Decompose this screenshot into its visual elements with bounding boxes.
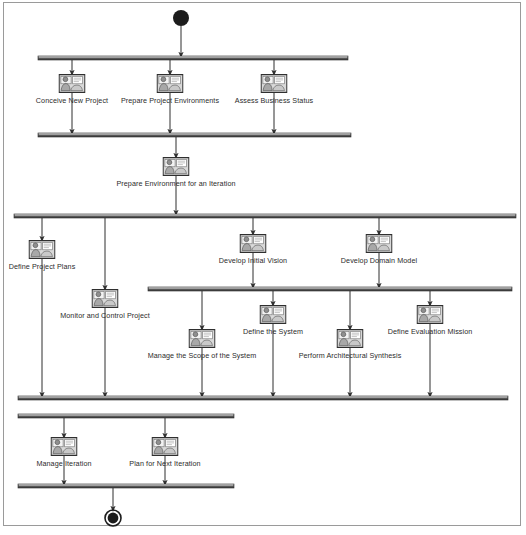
join-bar-3 xyxy=(18,484,234,488)
activity-diagram-canvas: Conceive New ProjectPrepare Project Envi… xyxy=(0,0,526,535)
activity-node-prepare-environment-for-an-iteration[interactable] xyxy=(163,157,190,176)
activity-icon xyxy=(260,305,287,324)
activity-node-plan-for-next-iteration[interactable] xyxy=(152,437,179,456)
activity-node-define-evaluation-mission[interactable] xyxy=(417,305,444,324)
activity-icon xyxy=(152,437,179,456)
activity-icon xyxy=(163,157,190,176)
initial-node xyxy=(173,10,189,26)
activity-label-manage-iteration: Manage Iteration xyxy=(36,459,91,468)
activity-node-define-the-system[interactable] xyxy=(260,305,287,324)
activity-label-manage-the-scope-of-the-system: Manage the Scope of the System xyxy=(148,351,257,360)
activity-node-prepare-project-environments[interactable] xyxy=(157,74,184,93)
activity-icon xyxy=(92,289,119,308)
activity-node-perform-architectural-synthesis[interactable] xyxy=(337,329,364,348)
activity-icon xyxy=(157,74,184,93)
activity-node-manage-the-scope-of-the-system[interactable] xyxy=(189,329,216,348)
activity-label-assess-business-status: Assess Business Status xyxy=(235,96,313,105)
activity-icon xyxy=(366,234,393,253)
activity-node-conceive-new-project[interactable] xyxy=(59,74,86,93)
final-node-core xyxy=(108,513,119,524)
activity-node-assess-business-status[interactable] xyxy=(261,74,288,93)
activity-label-prepare-project-environments: Prepare Project Environments xyxy=(121,96,219,105)
fork-bar-1 xyxy=(38,56,348,60)
activity-node-monitor-and-control-project[interactable] xyxy=(92,289,119,308)
fork-bar-2 xyxy=(14,214,516,218)
activity-label-develop-domain-model: Develop Domain Model xyxy=(341,256,417,265)
activity-icon xyxy=(240,234,267,253)
activity-icon xyxy=(29,240,56,259)
activity-label-monitor-and-control-project: Monitor and Control Project xyxy=(60,311,150,320)
activity-icon xyxy=(337,329,364,348)
fork-bar-4 xyxy=(18,414,234,418)
join-bar-2 xyxy=(18,396,508,400)
activity-icon xyxy=(189,329,216,348)
activity-label-plan-for-next-iteration: Plan for Next Iteration xyxy=(129,459,200,468)
activity-icon xyxy=(261,74,288,93)
activity-node-develop-domain-model[interactable] xyxy=(366,234,393,253)
activity-label-develop-initial-vision: Develop Initial Vision xyxy=(219,256,287,265)
activity-label-conceive-new-project: Conceive New Project xyxy=(36,96,108,105)
activity-icon xyxy=(51,437,78,456)
activity-label-define-evaluation-mission: Define Evaluation Mission xyxy=(388,327,473,336)
activity-node-define-project-plans[interactable] xyxy=(29,240,56,259)
activity-icon xyxy=(417,305,444,324)
activity-label-perform-architectural-synthesis: Perform Architectural Synthesis xyxy=(299,351,402,360)
fork-bar-3 xyxy=(148,287,512,291)
activity-icon xyxy=(59,74,86,93)
activity-label-prepare-environment-for-an-iteration: Prepare Environment for an Iteration xyxy=(116,179,235,188)
activity-label-define-project-plans: Define Project Plans xyxy=(9,262,76,271)
fork-join-bar-layer xyxy=(14,56,516,488)
activity-node-develop-initial-vision[interactable] xyxy=(240,234,267,253)
activity-node-manage-iteration[interactable] xyxy=(51,437,78,456)
activity-label-define-the-system: Define the System xyxy=(243,327,303,336)
join-bar-1 xyxy=(38,133,351,137)
